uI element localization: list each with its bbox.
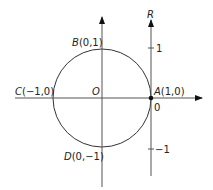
r-tick-label-1: 1	[156, 43, 162, 54]
point-a-label: A(1,0)	[153, 86, 185, 97]
point-b-label: B(0,1)	[72, 37, 103, 48]
r-tick-label-0: 0	[154, 102, 160, 113]
r-axis-label: R	[147, 9, 154, 20]
point-c-label: C(−1,0)	[15, 86, 54, 97]
r-tick-label-neg1: −1	[155, 144, 170, 155]
origin-label: O	[92, 86, 100, 97]
point-d-label: D(0,−1)	[64, 151, 104, 162]
point-a-dot	[149, 96, 154, 101]
unit-circle-diagram: R 1 0 −1 B(0,1) C(−1,0) O A(1,0) D(0,−1)	[0, 0, 213, 190]
